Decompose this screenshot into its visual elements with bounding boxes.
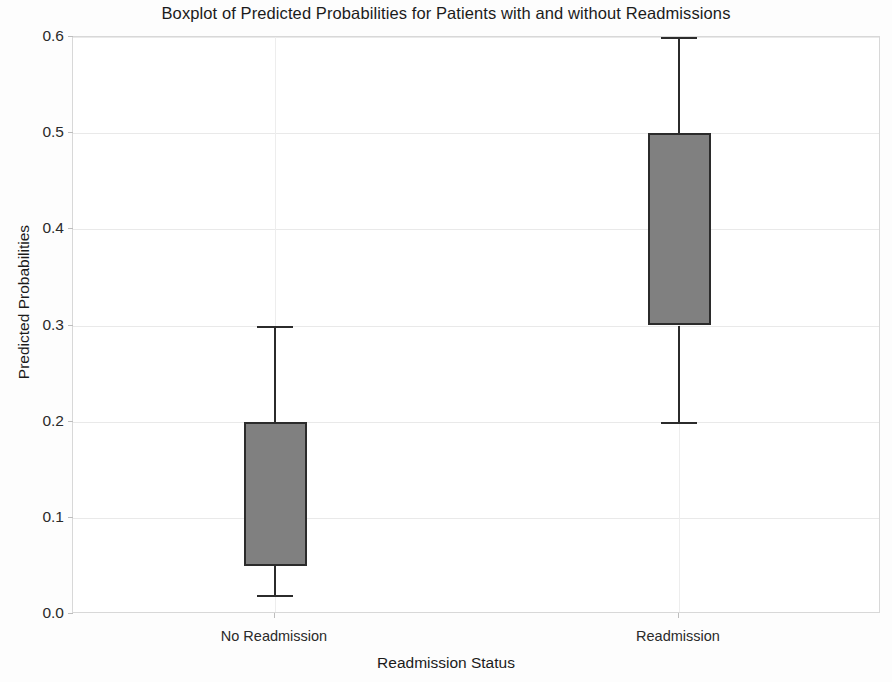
x-tick-label: No Readmission — [221, 628, 327, 644]
whisker-cap-lower — [661, 422, 697, 424]
y-tick-label: 0.0 — [6, 604, 64, 622]
x-tick-label: Readmission — [636, 628, 720, 644]
x-axis-ticks: No ReadmissionReadmission — [0, 628, 892, 650]
y-tickmark — [68, 228, 73, 229]
box-iqr — [648, 133, 711, 325]
whisker-cap-upper — [661, 37, 697, 39]
whisker-upper — [678, 37, 680, 133]
boxplot-figure: Boxplot of Predicted Probabilities for P… — [0, 0, 892, 682]
y-tickmark — [68, 613, 73, 614]
gridline-horizontal — [73, 422, 879, 423]
y-tick-label: 0.1 — [6, 508, 64, 526]
y-axis-label: Predicted Probabilities — [15, 152, 33, 452]
plot-area — [72, 36, 880, 613]
gridline-horizontal — [73, 326, 879, 327]
y-tickmark — [68, 132, 73, 133]
y-tick-label: 0.5 — [6, 123, 64, 141]
whisker-lower — [678, 326, 680, 422]
whisker-cap-lower — [257, 595, 293, 597]
y-tickmark — [68, 325, 73, 326]
y-tick-label: 0.6 — [6, 27, 64, 45]
y-tickmark — [68, 421, 73, 422]
whisker-lower — [274, 566, 276, 595]
gridline-horizontal — [73, 133, 879, 134]
x-tickmark — [274, 613, 275, 618]
whisker-cap-upper — [257, 326, 293, 328]
x-tickmark — [678, 613, 679, 618]
whisker-upper — [274, 326, 276, 422]
y-tickmark — [68, 517, 73, 518]
gridline-horizontal — [73, 518, 879, 519]
gridline-horizontal — [73, 229, 879, 230]
chart-title: Boxplot of Predicted Probabilities for P… — [0, 4, 892, 23]
gridline-horizontal — [73, 37, 879, 38]
box-iqr — [244, 422, 307, 566]
x-axis-label: Readmission Status — [0, 654, 892, 672]
y-tickmark — [68, 36, 73, 37]
